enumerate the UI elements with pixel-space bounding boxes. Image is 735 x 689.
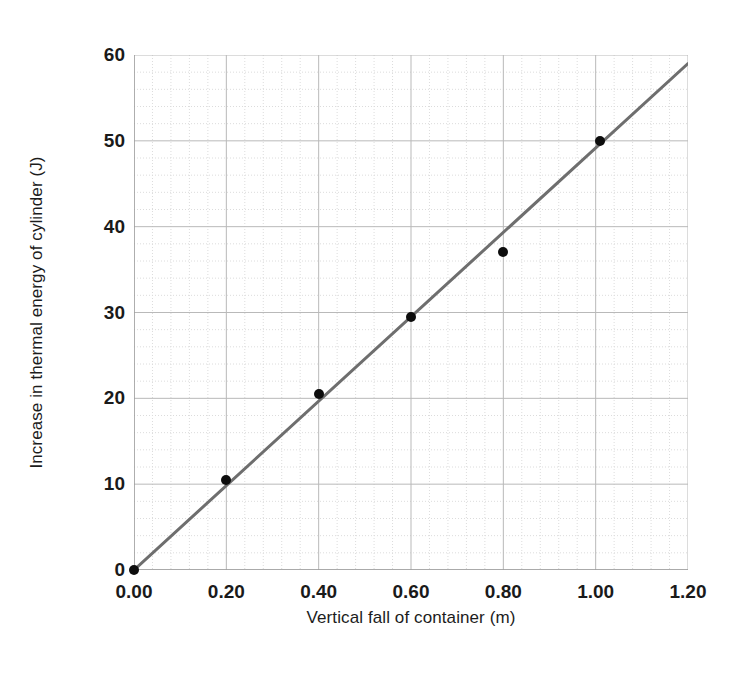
y-tick-label: 40	[104, 216, 125, 238]
x-tick-label: 0.60	[393, 581, 430, 603]
x-tick-label: 1.20	[670, 581, 707, 603]
plot-area: 0102030405060 0.000.200.400.600.801.001.…	[134, 55, 688, 570]
x-tick-label: 0.80	[485, 581, 522, 603]
data-point-marker	[406, 312, 416, 322]
y-tick-label: 10	[104, 473, 125, 495]
chart-figure: Increase in thermal energy of cylinder (…	[0, 0, 735, 689]
y-tick-label: 0	[114, 559, 125, 581]
data-point-marker	[129, 565, 139, 575]
y-tick-label: 60	[104, 44, 125, 66]
x-tick-label: 0.40	[300, 581, 337, 603]
x-tick-label: 1.00	[577, 581, 614, 603]
y-tick-label: 50	[104, 130, 125, 152]
x-tick-label: 0.20	[208, 581, 245, 603]
x-tick-label: 0.00	[116, 581, 153, 603]
y-tick-label: 20	[104, 387, 125, 409]
x-axis-title: Vertical fall of container (m)	[134, 608, 688, 628]
y-axis-title: Increase in thermal energy of cylinder (…	[22, 55, 52, 570]
data-point-marker	[314, 389, 324, 399]
y-tick-label: 30	[104, 302, 125, 324]
